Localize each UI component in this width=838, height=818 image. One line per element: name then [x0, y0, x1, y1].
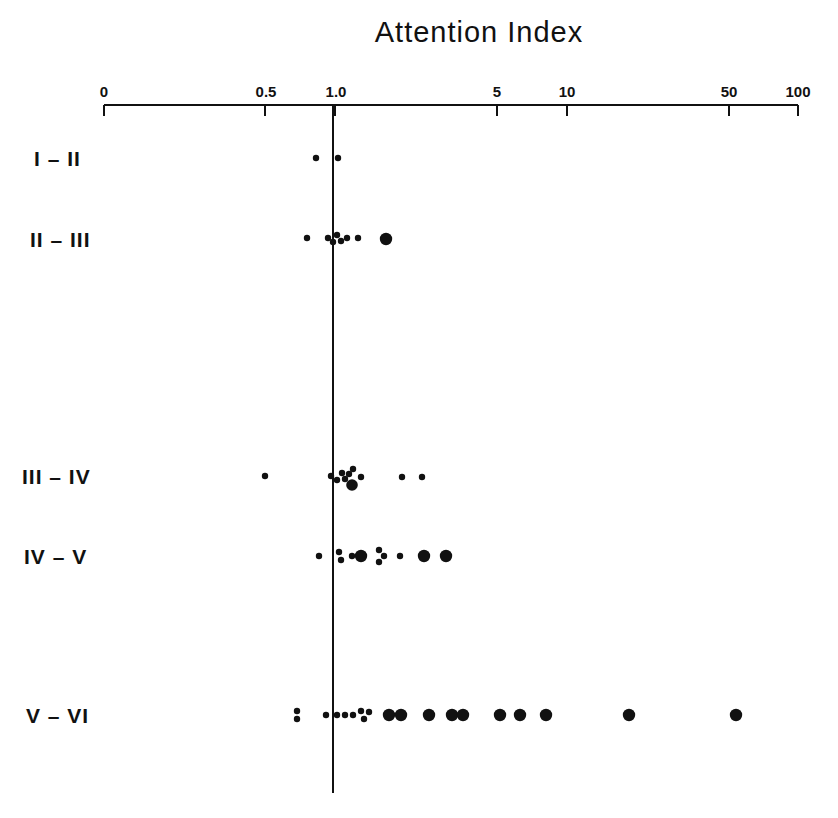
series-v-vi [294, 708, 742, 722]
data-point [361, 716, 367, 722]
data-point [330, 239, 336, 245]
data-point [355, 235, 361, 241]
tick-label-5: 5 [493, 83, 501, 100]
chart-canvas: 0 0.5 1.0 5 10 50 100 I – II II – III II… [0, 0, 838, 818]
data-point [376, 559, 382, 565]
data-point [334, 712, 340, 718]
data-point [338, 238, 344, 244]
data-point [294, 708, 300, 714]
data-point-large [730, 709, 742, 721]
data-point-large [383, 709, 395, 721]
data-point-large [380, 233, 392, 245]
category-label-i-ii: I – II [34, 147, 81, 170]
series-iii-iv [262, 466, 425, 491]
tick-label-10: 10 [559, 83, 576, 100]
data-point-large [440, 550, 452, 562]
category-label-v-vi: V – VI [26, 704, 89, 727]
data-point [323, 712, 329, 718]
data-point [397, 553, 403, 559]
data-point [262, 473, 268, 479]
data-point [342, 476, 348, 482]
data-point-large [423, 709, 435, 721]
data-point-large [457, 709, 469, 721]
data-point [349, 553, 355, 559]
data-point [334, 477, 340, 483]
category-label-iii-iv: III – IV [22, 465, 91, 488]
x-tick-labels: 0 0.5 1.0 5 10 50 100 [100, 83, 811, 100]
data-point-large [540, 709, 552, 721]
data-point-large [514, 709, 526, 721]
data-point [336, 549, 342, 555]
data-point-large [494, 709, 506, 721]
tick-label-1-0: 1.0 [326, 83, 347, 100]
data-point [334, 232, 340, 238]
data-point [339, 470, 345, 476]
data-point [346, 471, 352, 477]
data-point [316, 553, 322, 559]
data-point [325, 235, 331, 241]
data-point-large [418, 550, 430, 562]
category-label-ii-iii: II – III [30, 228, 91, 251]
data-point [328, 473, 334, 479]
series-iv-v [316, 547, 452, 565]
data-point [419, 474, 425, 480]
category-labels: I – II II – III III – IV IV – V V – VI [22, 147, 91, 727]
tick-label-0: 0 [100, 83, 108, 100]
data-point [304, 235, 310, 241]
data-point-large [395, 709, 407, 721]
data-point [344, 235, 350, 241]
data-point [358, 708, 364, 714]
data-point [342, 712, 348, 718]
data-point [366, 709, 372, 715]
data-point [350, 712, 356, 718]
data-point [350, 466, 356, 472]
data-point [381, 553, 387, 559]
data-point-large [623, 709, 635, 721]
data-point [376, 547, 382, 553]
data-point-large [346, 479, 358, 491]
data-point [338, 557, 344, 563]
data-point [399, 474, 405, 480]
tick-label-50: 50 [721, 83, 738, 100]
data-point-large [446, 709, 458, 721]
data-point [358, 474, 364, 480]
series-ii-iii [304, 232, 392, 245]
data-point-large [355, 550, 367, 562]
tick-label-0-5: 0.5 [256, 83, 277, 100]
data-point [294, 716, 300, 722]
data-point [313, 155, 319, 161]
x-axis [104, 105, 798, 116]
data-point [335, 155, 341, 161]
category-label-iv-v: IV – V [24, 545, 87, 568]
series-i-ii [313, 155, 341, 161]
tick-label-100: 100 [785, 83, 810, 100]
